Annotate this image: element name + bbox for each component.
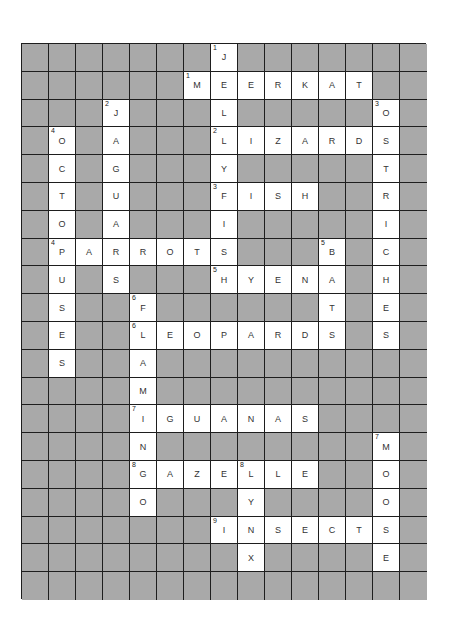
crossword-cell[interactable]: A — [265, 405, 292, 433]
crossword-cell[interactable]: A — [319, 72, 346, 100]
crossword-cell[interactable]: A — [211, 405, 238, 433]
crossword-cell[interactable]: 7M — [373, 433, 400, 461]
crossword-cell[interactable]: N — [238, 517, 265, 545]
crossword-cell[interactable]: D — [346, 127, 373, 155]
crossword-cell[interactable]: C — [319, 517, 346, 545]
crossword-cell[interactable]: S — [373, 517, 400, 545]
crossword-cell[interactable]: O — [373, 461, 400, 489]
crossword-cell[interactable]: I — [373, 211, 400, 239]
crossword-cell[interactable]: 3F — [211, 183, 238, 211]
crossword-cell[interactable]: T — [346, 72, 373, 100]
crossword-cell[interactable]: Y — [238, 266, 265, 294]
crossword-cell[interactable]: E — [292, 517, 319, 545]
crossword-cell[interactable]: H — [373, 266, 400, 294]
crossword-cell[interactable]: M — [130, 378, 157, 406]
crossword-cell[interactable]: L — [211, 100, 238, 128]
crossword-cell[interactable]: I — [238, 183, 265, 211]
crossword-cell[interactable]: R — [130, 239, 157, 267]
crossword-cell[interactable]: L — [265, 461, 292, 489]
crossword-cell[interactable]: D — [292, 322, 319, 350]
crossword-cell[interactable]: 7I — [130, 405, 157, 433]
crossword-cell[interactable]: R — [373, 183, 400, 211]
crossword-cell[interactable]: Y — [211, 155, 238, 183]
crossword-cell[interactable]: U — [184, 405, 211, 433]
crossword-cell[interactable]: I — [211, 211, 238, 239]
crossword-cell[interactable]: 1J — [211, 44, 238, 72]
crossword-cell[interactable]: E — [373, 544, 400, 572]
cell-letter: B — [319, 239, 345, 266]
crossword-cell[interactable]: E — [265, 266, 292, 294]
crossword-cell[interactable]: T — [319, 294, 346, 322]
crossword-cell[interactable]: A — [319, 266, 346, 294]
crossword-cell[interactable]: R — [265, 322, 292, 350]
crossword-cell[interactable]: S — [373, 322, 400, 350]
crossword-cell[interactable]: 1M — [184, 72, 211, 100]
crossword-cell[interactable]: A — [103, 127, 130, 155]
crossword-cell[interactable]: E — [211, 461, 238, 489]
crossword-cell[interactable]: T — [373, 155, 400, 183]
crossword-cell[interactable]: S — [103, 266, 130, 294]
crossword-cell[interactable]: O — [49, 211, 76, 239]
crossword-cell[interactable]: U — [103, 183, 130, 211]
crossword-cell[interactable]: E — [211, 72, 238, 100]
crossword-cell[interactable]: S — [49, 350, 76, 378]
crossword-cell[interactable]: C — [373, 239, 400, 267]
crossword-cell[interactable]: T — [346, 517, 373, 545]
crossword-cell[interactable]: U — [49, 266, 76, 294]
crossword-cell[interactable]: 4P — [49, 239, 76, 267]
crossword-cell[interactable]: E — [157, 322, 184, 350]
crossword-cell[interactable]: H — [292, 183, 319, 211]
crossword-cell[interactable]: S — [49, 294, 76, 322]
crossword-cell[interactable]: Z — [265, 127, 292, 155]
crossword-cell[interactable]: O — [157, 239, 184, 267]
crossword-cell[interactable]: O — [184, 322, 211, 350]
blocked-cell — [400, 183, 427, 211]
crossword-cell[interactable]: 4O — [49, 127, 76, 155]
crossword-cell[interactable]: E — [238, 72, 265, 100]
crossword-cell[interactable]: X — [238, 544, 265, 572]
crossword-cell[interactable]: 8G — [130, 461, 157, 489]
crossword-cell[interactable]: O — [373, 489, 400, 517]
crossword-cell[interactable]: T — [184, 239, 211, 267]
crossword-cell[interactable]: C — [49, 155, 76, 183]
crossword-cell[interactable]: S — [265, 183, 292, 211]
crossword-cell[interactable]: P — [211, 322, 238, 350]
crossword-cell[interactable]: S — [292, 405, 319, 433]
crossword-cell[interactable]: A — [76, 239, 103, 267]
crossword-cell[interactable]: S — [373, 127, 400, 155]
crossword-cell[interactable]: 2L — [211, 127, 238, 155]
crossword-cell[interactable]: S — [319, 322, 346, 350]
crossword-cell[interactable]: 8L — [238, 461, 265, 489]
crossword-cell[interactable]: S — [265, 517, 292, 545]
crossword-cell[interactable]: R — [265, 72, 292, 100]
crossword-cell[interactable]: 3O — [373, 100, 400, 128]
crossword-cell[interactable]: 5B — [319, 239, 346, 267]
crossword-cell[interactable]: 6F — [130, 294, 157, 322]
crossword-cell[interactable]: T — [49, 183, 76, 211]
crossword-cell[interactable]: A — [103, 211, 130, 239]
crossword-cell[interactable]: A — [238, 322, 265, 350]
crossword-cell[interactable]: E — [292, 461, 319, 489]
crossword-cell[interactable]: Z — [184, 461, 211, 489]
crossword-cell[interactable]: N — [130, 433, 157, 461]
crossword-cell[interactable]: Y — [238, 489, 265, 517]
crossword-cell[interactable]: A — [292, 127, 319, 155]
crossword-cell[interactable]: G — [157, 405, 184, 433]
crossword-cell[interactable]: 6L — [130, 322, 157, 350]
crossword-cell[interactable]: 2J — [103, 100, 130, 128]
crossword-cell[interactable]: E — [373, 294, 400, 322]
crossword-cell[interactable]: N — [292, 266, 319, 294]
crossword-cell[interactable]: A — [157, 461, 184, 489]
crossword-cell[interactable]: S — [211, 239, 238, 267]
crossword-cell[interactable]: R — [319, 127, 346, 155]
crossword-cell[interactable]: G — [103, 155, 130, 183]
crossword-cell[interactable]: R — [103, 239, 130, 267]
crossword-cell[interactable]: 5H — [211, 266, 238, 294]
crossword-cell[interactable]: I — [238, 127, 265, 155]
crossword-cell[interactable]: E — [49, 322, 76, 350]
crossword-cell[interactable]: N — [238, 405, 265, 433]
crossword-cell[interactable]: O — [130, 489, 157, 517]
crossword-cell[interactable]: 9I — [211, 517, 238, 545]
crossword-cell[interactable]: A — [130, 350, 157, 378]
crossword-cell[interactable]: K — [292, 72, 319, 100]
